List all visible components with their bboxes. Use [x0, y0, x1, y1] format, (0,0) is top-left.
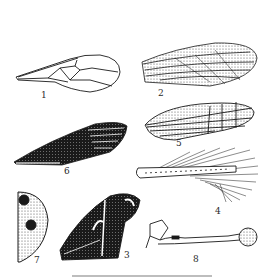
figure-canvas — [0, 0, 270, 278]
panel-label-5: 5 — [176, 138, 182, 148]
wing-4-illustration — [136, 148, 258, 202]
haltere-8-illustration — [146, 220, 257, 248]
wing-5-illustration — [145, 102, 254, 140]
figure-caption-clipped — [72, 272, 212, 278]
panel-label-7: 7 — [34, 255, 40, 265]
panel-label-1: 1 — [41, 90, 47, 100]
panel-label-6: 6 — [64, 166, 70, 176]
wing-6-illustration — [14, 122, 127, 165]
panel-label-3: 3 — [124, 250, 130, 260]
panel-label-4: 4 — [215, 206, 221, 216]
wing-2-illustration — [142, 43, 257, 86]
panel-label-2: 2 — [158, 88, 164, 98]
panel-label-8: 8 — [193, 254, 199, 264]
wing-7-illustration — [18, 192, 48, 262]
wing-1-illustration — [16, 55, 120, 92]
